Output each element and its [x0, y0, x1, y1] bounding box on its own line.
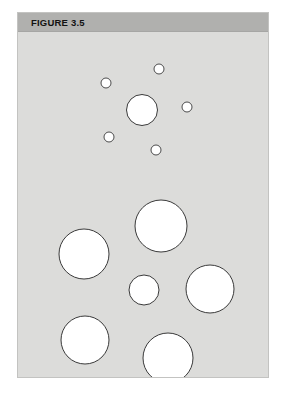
circle-marker — [129, 275, 159, 305]
circle-marker — [61, 316, 109, 364]
circle-marker — [143, 333, 193, 378]
circle-marker — [104, 132, 114, 142]
circle-marker — [186, 265, 234, 313]
figure-root: FIGURE 3.5 — [0, 0, 287, 399]
figure-canvas — [18, 32, 268, 378]
circle-marker — [135, 200, 187, 252]
circles-group — [59, 64, 234, 378]
circle-marker — [182, 102, 192, 112]
circle-marker — [151, 145, 161, 155]
figure-panel: FIGURE 3.5 — [17, 12, 269, 378]
circles-diagram — [18, 32, 268, 378]
figure-header-bar: FIGURE 3.5 — [18, 13, 268, 32]
circle-marker — [154, 64, 164, 74]
circle-marker — [101, 78, 111, 88]
circle-marker — [59, 229, 109, 279]
circle-marker — [127, 95, 158, 126]
figure-title: FIGURE 3.5 — [31, 17, 85, 28]
